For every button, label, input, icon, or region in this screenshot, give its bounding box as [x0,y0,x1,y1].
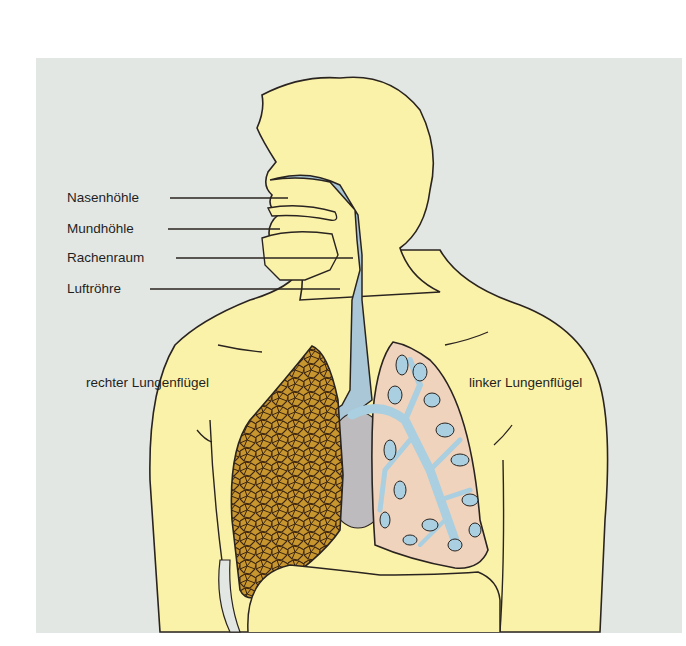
label-linker-lungenfluegel: linker Lungenflügel [469,375,582,391]
respiratory-system-diagram [0,0,686,646]
label-mundhoehle: Mundhöhle [67,221,134,237]
label-rechter-lungenfluegel: rechter Lungenflügel [86,375,209,391]
diaphragm [248,565,500,632]
label-luftroehre: Luftröhre [67,281,121,297]
label-rachenraum: Rachenraum [67,250,144,266]
label-nasenhoehle: Nasenhöhle [67,190,139,206]
